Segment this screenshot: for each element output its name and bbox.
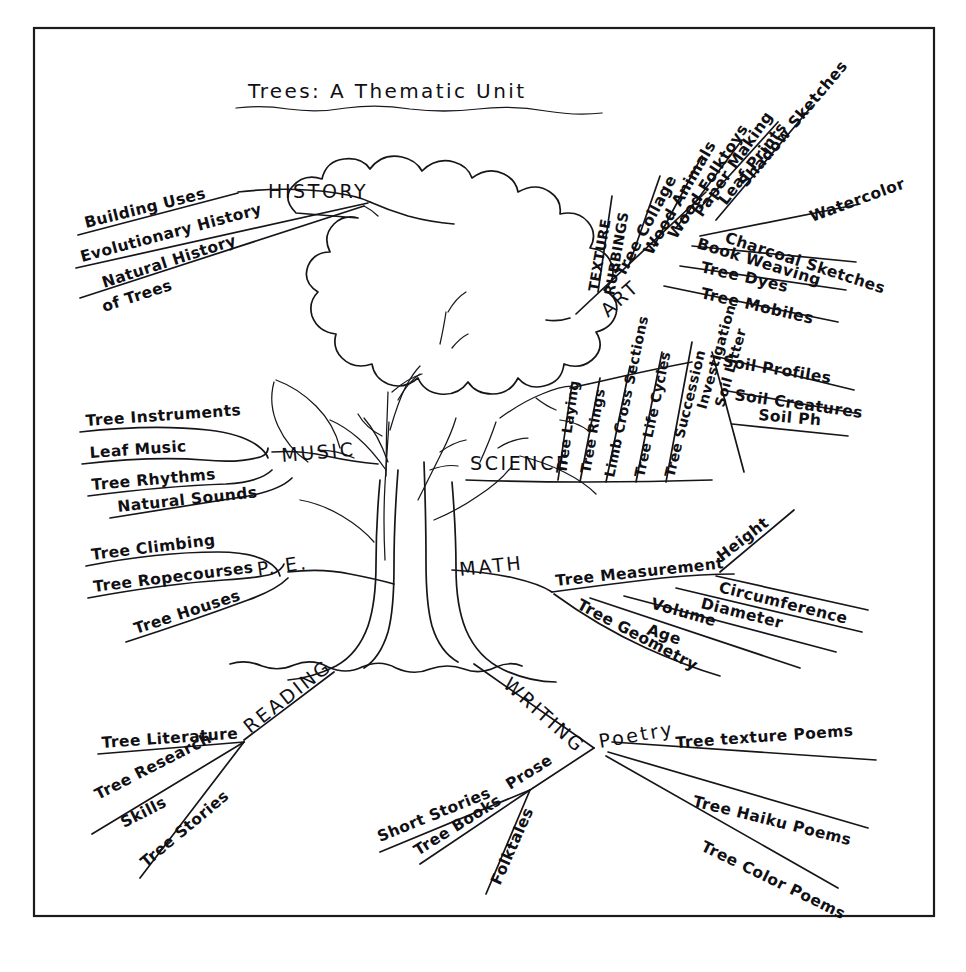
history-fork <box>364 206 378 216</box>
reading-item-skills[interactable]: Skills <box>118 793 170 831</box>
tree-branch-2 <box>364 418 388 462</box>
branch-label-writing[interactable]: WRITING <box>499 673 589 758</box>
writing-label-prose[interactable]: Prose <box>503 751 556 794</box>
tree-branch-15 <box>452 334 468 348</box>
branch-label-history[interactable]: HISTORY <box>268 180 368 202</box>
poetry-item-tree-haiku-poems[interactable]: Tree Haiku Poems <box>691 792 853 849</box>
music-item-tree-instruments[interactable]: Tree Instruments <box>85 401 242 430</box>
tree-branch-6 <box>392 374 422 392</box>
poetry-item-tree-texture-poems[interactable]: Tree texture Poems <box>675 722 854 752</box>
page-title: Trees: A Thematic Unit <box>247 79 526 103</box>
tree-branch-12 <box>498 438 528 448</box>
art-item-tree-mobiles[interactable]: Tree Mobiles <box>699 284 815 327</box>
tree-branch-8 <box>440 440 466 452</box>
branch-science-baseline <box>466 480 712 482</box>
tree-branch-13 <box>440 312 446 344</box>
tree-branch-7 <box>418 418 456 500</box>
math-item-tree-measurement[interactable]: Tree Measurement <box>555 554 725 590</box>
tree-trunk-left <box>288 480 380 680</box>
art-item-watercolor[interactable]: Watercolor <box>807 175 907 226</box>
mindmap-drawing: HISTORY Building Uses Evolutionary Histo… <box>0 0 966 972</box>
branch-label-pe[interactable]: P. E. <box>255 551 309 580</box>
branch-history-link <box>370 202 454 224</box>
title-underline <box>236 106 602 114</box>
science-item-tree-laying[interactable]: Tree Laying <box>553 379 582 474</box>
tree-trunk-right <box>452 482 556 682</box>
tree-branch-14 <box>448 292 466 312</box>
tree-branch-18 <box>300 500 374 542</box>
mindmap-canvas: HISTORY Building Uses Evolutionary Histo… <box>0 0 966 972</box>
pe-item-tree-houses[interactable]: Tree Houses <box>132 586 243 637</box>
pe-item-tree-climbing[interactable]: Tree Climbing <box>90 531 216 564</box>
canopy-contour-left <box>276 380 340 448</box>
math-item-height[interactable]: Height <box>713 513 772 565</box>
tree-branch-4 <box>390 366 420 430</box>
soil-item-soil-profiles[interactable]: Soil Profiles <box>721 352 832 387</box>
tree-branch-17 <box>536 398 556 410</box>
tree-trunk-left-inner <box>364 470 398 668</box>
tree-branch-10 <box>434 466 512 520</box>
writing-label-poetry[interactable]: Poetry <box>597 717 676 752</box>
branch-label-math[interactable]: MATH <box>458 551 524 580</box>
branch-label-music[interactable]: MUSIC <box>280 438 356 466</box>
branch-art-base <box>546 318 570 321</box>
writing-item-folktales[interactable]: Folktales <box>487 805 537 888</box>
